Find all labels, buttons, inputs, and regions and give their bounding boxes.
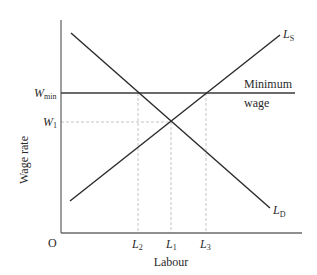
supply-curve-label: LS — [282, 27, 294, 43]
l1-label: L1 — [165, 237, 177, 252]
minimum-wage-label-line2: wage — [244, 96, 269, 110]
w1-label: W1 — [43, 115, 57, 130]
demand-curve-label: LD — [272, 203, 286, 219]
origin-label: O — [48, 236, 57, 250]
labour-market-diagram: LS LD Minimum wage Wmin W1 Wage rate O L… — [0, 0, 317, 275]
y-axis-label: Wage rate — [17, 136, 31, 184]
demand-curve — [71, 33, 270, 208]
minimum-wage-label-line1: Minimum — [244, 77, 293, 91]
x-axis-label: Labour — [154, 255, 189, 269]
l2-label: L2 — [131, 237, 143, 252]
guide-lines — [61, 93, 206, 233]
w-min-label: Wmin — [34, 86, 56, 101]
axes — [61, 20, 302, 233]
l3-label: L3 — [199, 237, 211, 252]
